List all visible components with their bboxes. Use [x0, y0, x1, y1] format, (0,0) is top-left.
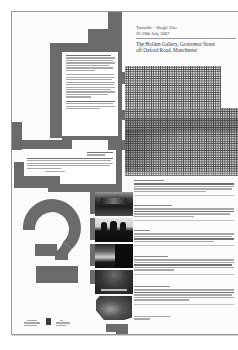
gray-bar-left-edge [12, 122, 22, 150]
event-dates: 26-28th July 2007 [136, 31, 236, 37]
section-6: Artist 6 [134, 316, 234, 321]
halftone-shadow-diag [125, 130, 185, 172]
gray-tab-right-mid [122, 140, 125, 150]
section-heading [134, 230, 150, 231]
section-heading [134, 180, 164, 181]
logo-3 [56, 320, 70, 327]
caption-body [27, 158, 113, 169]
photo-silhouette [95, 218, 133, 242]
logo-1 [24, 320, 40, 327]
venue-line-2: off Oxford Road, Manchester [136, 47, 236, 53]
halftone-image-top [125, 66, 221, 108]
photo-landscape [95, 244, 133, 268]
intro-paragraph-2 [66, 74, 115, 98]
photo-corridor [95, 192, 133, 216]
intro-text-panel [62, 52, 118, 136]
section-2: Artist 2 [134, 205, 234, 221]
question-mark-graphic [20, 194, 82, 300]
section-heading [134, 256, 168, 257]
section-heading [134, 286, 170, 287]
section-4: Artist 4 [134, 256, 234, 274]
photo-dome [95, 270, 133, 294]
caption-heading [87, 152, 113, 156]
halftone-image-bottom [125, 172, 238, 176]
intro-paragraph-1 [66, 55, 115, 71]
logo-2 [46, 318, 51, 325]
gray-block-step-1 [88, 29, 122, 43]
gray-block-bottom-step-2 [116, 324, 128, 335]
section-1: Artist 1 [134, 180, 234, 196]
gray-tab-right-top [122, 110, 125, 120]
event-poster: Turnstile - Single Use: 26-28th July 200… [11, 11, 238, 335]
title-divider [136, 38, 236, 39]
photo-group [96, 296, 132, 320]
gray-bar-mid-2 [62, 136, 122, 140]
sponsor-logos [24, 318, 84, 332]
section-3: Artist 3 [134, 230, 234, 246]
gray-bar-lower-step-2 [48, 184, 122, 192]
title-block: Turnstile - Single Use: 26-28th July 200… [136, 25, 236, 53]
section-5: Artist 5 [134, 286, 234, 304]
section-heading [134, 205, 172, 206]
intro-paragraph-3 [66, 101, 115, 110]
gray-block-left-vertical [50, 43, 62, 138]
